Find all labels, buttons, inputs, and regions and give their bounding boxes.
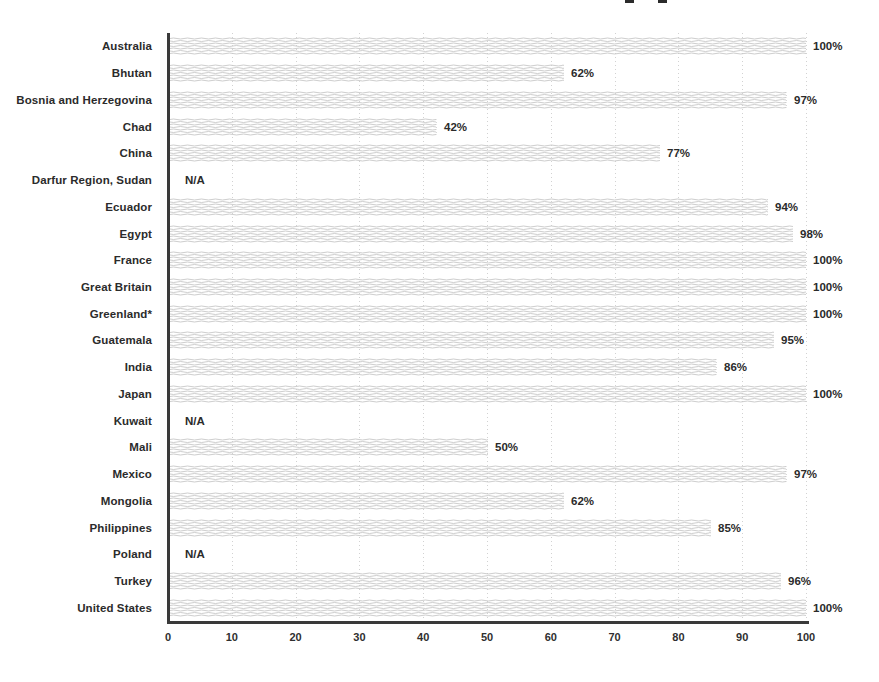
x-tick-label: 80 [672, 631, 684, 643]
bar-row: 50% [170, 434, 806, 461]
bar [170, 37, 806, 55]
x-tick-label: 60 [545, 631, 557, 643]
category-label: Darfur Region, Sudan [0, 167, 161, 194]
x-tick-label: 90 [736, 631, 748, 643]
category-label: Guatemala [0, 327, 161, 354]
value-label: 62% [571, 67, 594, 79]
x-tick-label: 20 [289, 631, 301, 643]
value-label: 100% [813, 281, 842, 293]
bar [170, 438, 488, 456]
bar [170, 599, 806, 617]
bar [170, 198, 768, 216]
value-label: 100% [813, 602, 842, 614]
bar-row: 62% [170, 487, 806, 514]
value-label: 42% [444, 121, 467, 133]
x-tick-label: 70 [608, 631, 620, 643]
value-label: 62% [571, 495, 594, 507]
value-label: 50% [495, 441, 518, 453]
bar [170, 572, 781, 590]
value-label: 97% [794, 94, 817, 106]
x-tick-label: 0 [165, 631, 171, 643]
category-label: Mali [0, 434, 161, 461]
na-label: N/A [185, 548, 205, 560]
x-tick-label: 10 [226, 631, 238, 643]
bar-row: N/A [170, 541, 806, 568]
x-tick-label: 40 [417, 631, 429, 643]
category-label: Mexico [0, 461, 161, 488]
bar [170, 225, 793, 243]
bar-row: 98% [170, 220, 806, 247]
bar-row: 100% [170, 381, 806, 408]
category-label: Japan [0, 381, 161, 408]
bar-row: 42% [170, 113, 806, 140]
bar [170, 64, 564, 82]
category-label: Greenland* [0, 300, 161, 327]
category-label: Turkey [0, 568, 161, 595]
bar [170, 519, 711, 537]
value-label: 94% [775, 201, 798, 213]
category-label: Poland [0, 541, 161, 568]
bar [170, 144, 660, 162]
value-label: 98% [800, 228, 823, 240]
category-label: United States [0, 594, 161, 621]
bar-row: 100% [170, 274, 806, 301]
value-label: 77% [667, 147, 690, 159]
cropped-title-mark [625, 0, 634, 3]
category-label: Philippines [0, 514, 161, 541]
category-label: France [0, 247, 161, 274]
x-tick-label: 50 [481, 631, 493, 643]
bar [170, 278, 806, 296]
category-labels: AustraliaBhutanBosnia and HerzegovinaCha… [0, 33, 161, 621]
cropped-title-mark [658, 0, 667, 3]
bar [170, 331, 774, 349]
bar [170, 118, 437, 136]
bar-row: 94% [170, 193, 806, 220]
value-label: 100% [813, 40, 842, 52]
chart-canvas: AustraliaBhutanBosnia and HerzegovinaCha… [0, 0, 879, 682]
bar-row: 85% [170, 514, 806, 541]
value-label: 100% [813, 254, 842, 266]
bar [170, 385, 806, 403]
bar-row: 100% [170, 300, 806, 327]
value-label: 100% [813, 308, 842, 320]
bar-row: 95% [170, 327, 806, 354]
x-tick-label: 30 [353, 631, 365, 643]
bar-row: N/A [170, 167, 806, 194]
value-label: 96% [788, 575, 811, 587]
na-label: N/A [185, 415, 205, 427]
bar-row: 97% [170, 461, 806, 488]
value-label: 100% [813, 388, 842, 400]
bar-row: 100% [170, 594, 806, 621]
category-label: Kuwait [0, 407, 161, 434]
x-tick-labels: 0102030405060708090100 [168, 631, 806, 647]
category-label: Bhutan [0, 60, 161, 87]
bar [170, 305, 806, 323]
category-label: Mongolia [0, 487, 161, 514]
bar-row: 77% [170, 140, 806, 167]
bar [170, 358, 717, 376]
gridline [806, 33, 807, 621]
category-label: Ecuador [0, 193, 161, 220]
category-label: India [0, 354, 161, 381]
bar-row: 100% [170, 33, 806, 60]
category-label: Chad [0, 113, 161, 140]
category-label: Australia [0, 33, 161, 60]
value-label: 95% [781, 334, 804, 346]
category-label: Great Britain [0, 274, 161, 301]
x-tick-label: 100 [797, 631, 815, 643]
bar [170, 91, 787, 109]
bar-row: 86% [170, 354, 806, 381]
bar [170, 465, 787, 483]
bar [170, 492, 564, 510]
na-label: N/A [185, 174, 205, 186]
bar-rows: 100%62%97%42%77%N/A94%98%100%100%100%95%… [170, 33, 806, 621]
value-label: 97% [794, 468, 817, 480]
bar [170, 251, 806, 269]
bar-row: 62% [170, 60, 806, 87]
x-axis [167, 621, 809, 624]
category-label: China [0, 140, 161, 167]
bar-row: 100% [170, 247, 806, 274]
value-label: 86% [724, 361, 747, 373]
bar-row: N/A [170, 407, 806, 434]
category-label: Egypt [0, 220, 161, 247]
